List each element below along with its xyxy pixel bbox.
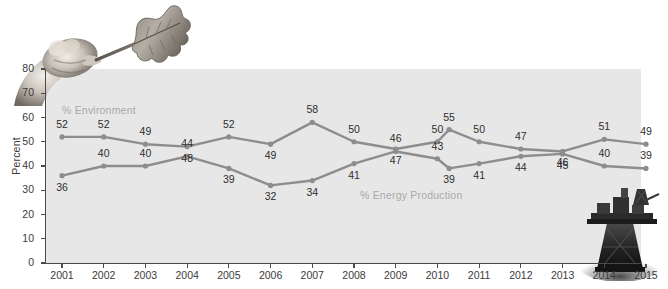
data-point-marker [226,134,231,139]
point-value-label: 49 [258,150,284,161]
series-lines [0,0,668,289]
point-value-label: 39 [633,150,659,161]
point-value-label: 51 [591,121,617,132]
point-value-label: 44 [508,162,534,173]
series-label-environment: % Environment [62,104,136,116]
data-point-marker [143,142,148,147]
point-value-label: 52 [91,119,117,130]
point-value-label: 34 [299,187,325,198]
data-point-marker [602,137,607,142]
point-value-label: 50 [341,124,367,135]
point-value-label: 49 [633,126,659,137]
data-point-marker [447,166,452,171]
point-value-label: 52 [49,119,75,130]
data-point-marker [602,163,607,168]
data-point-marker [59,134,64,139]
point-value-label: 44 [174,138,200,149]
point-value-label: 43 [424,141,450,152]
data-point-marker [518,154,523,159]
point-value-label: 40 [132,148,158,159]
series-label-energy: % Energy Production [360,189,462,201]
data-point-marker [351,161,356,166]
point-value-label: 40 [91,148,117,159]
data-point-marker [59,173,64,178]
point-value-label: 41 [466,170,492,181]
data-point-marker [643,166,648,171]
data-point-marker [643,142,648,147]
point-value-label: 39 [216,174,242,185]
point-value-label: 32 [258,191,284,202]
data-point-marker [101,163,106,168]
data-point-marker [310,178,315,183]
data-point-marker [101,134,106,139]
point-value-label: 47 [508,131,534,142]
line-chart: Percent 01020304050607080 20012002200320… [0,0,668,289]
data-point-marker [435,156,440,161]
data-point-marker [268,183,273,188]
data-point-marker [226,166,231,171]
point-value-label: 58 [299,104,325,115]
point-value-label: 49 [132,126,158,137]
point-value-label: 52 [216,119,242,130]
point-value-label: 40 [591,148,617,159]
data-point-marker [518,146,523,151]
point-value-label: 41 [341,170,367,181]
data-point-marker [477,139,482,144]
point-value-label: 55 [436,112,462,123]
point-value-label: 48 [174,153,200,164]
point-value-label: 50 [466,124,492,135]
point-value-label: 47 [383,155,409,166]
point-value-label: 45 [550,160,576,171]
data-point-marker [143,163,148,168]
point-value-label: 39 [436,174,462,185]
data-point-marker [310,120,315,125]
point-value-label: 46 [383,133,409,144]
data-point-marker [351,139,356,144]
point-value-label: 50 [424,124,450,135]
data-point-marker [268,142,273,147]
data-point-marker [477,161,482,166]
point-value-label: 36 [49,182,75,193]
